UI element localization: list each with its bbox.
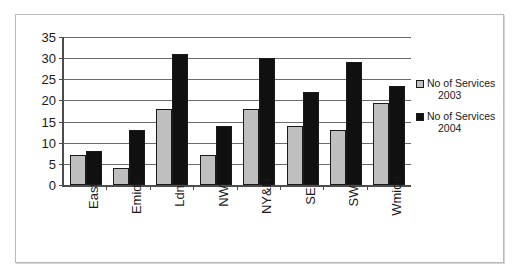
- legend-series-name: No of Services: [427, 110, 495, 122]
- x-label-cell: SE: [281, 194, 324, 254]
- bar-east-2003: [70, 155, 86, 185]
- bar-emids-2003: [113, 168, 129, 185]
- bar-group: [238, 37, 281, 185]
- y-tick-label: 0: [49, 178, 56, 193]
- y-tick-label: 15: [42, 114, 56, 129]
- x-tick-label: Emids: [129, 178, 144, 214]
- bar-wmids-2004: [389, 86, 405, 185]
- bar-group: [368, 37, 411, 185]
- x-axis-labels: EastEmidsLdnNWNY&HSESWWmids: [64, 194, 411, 254]
- bar-nw-2004: [216, 126, 232, 185]
- legend-series-name: No of Services: [427, 77, 495, 89]
- chart-frame: 05101520253035 EastEmidsLdnNWNY&HSESWWmi…: [15, 14, 504, 263]
- y-tick-label: 5: [49, 156, 56, 171]
- x-tick-mark: [323, 185, 324, 190]
- bar-group: [107, 37, 150, 185]
- bar-ldn-2004: [172, 54, 188, 185]
- x-label-cell: NW: [194, 194, 237, 254]
- legend-swatch-icon: [416, 80, 424, 88]
- x-label-cell: NY&H: [238, 194, 281, 254]
- x-tick-label: NY&H: [259, 178, 274, 214]
- x-label-cell: East: [64, 194, 107, 254]
- bar-group: [64, 37, 107, 185]
- bar-se-2004: [303, 92, 319, 185]
- bar-wmids-2003: [373, 103, 389, 185]
- legend-item: No of Services2003: [416, 77, 504, 101]
- bar-nw-2003: [200, 155, 216, 185]
- chart-legend: No of Services2003No of Services2004: [416, 77, 504, 143]
- legend-label: No of Services2004: [427, 110, 495, 134]
- bar-ldn-2003: [156, 109, 172, 185]
- legend-series-year: 2003: [427, 89, 495, 101]
- x-tick-mark: [367, 185, 368, 190]
- y-tick-label: 10: [42, 135, 56, 150]
- legend-series-year: 2004: [427, 122, 495, 134]
- bar-sw-2004: [346, 62, 362, 185]
- legend-label: No of Services2003: [427, 77, 495, 101]
- plot-area: 05101520253035 EastEmidsLdnNWNY&HSESWWmi…: [62, 37, 411, 187]
- bars-layer: [64, 37, 411, 185]
- x-tick-mark: [280, 185, 281, 190]
- x-tick-mark: [193, 185, 194, 190]
- bar-group: [324, 37, 367, 185]
- legend-item: No of Services2004: [416, 110, 504, 134]
- bar-group: [151, 37, 194, 185]
- x-label-cell: SW: [324, 194, 367, 254]
- x-tick-label: SE: [303, 187, 318, 204]
- x-tick-label: Ldn: [172, 185, 187, 207]
- bar-sw-2003: [330, 130, 346, 185]
- bar-group: [281, 37, 324, 185]
- y-tick-mark: [59, 185, 64, 186]
- bar-ny-h-2004: [259, 58, 275, 185]
- x-tick-mark: [150, 185, 151, 190]
- x-tick-label: NW: [216, 185, 231, 207]
- y-tick-label: 25: [42, 72, 56, 87]
- bar-east-2004: [86, 151, 102, 185]
- bar-group: [194, 37, 237, 185]
- x-tick-label: SW: [346, 186, 361, 207]
- legend-swatch-icon: [416, 113, 424, 121]
- x-tick-label: Wmids: [389, 176, 404, 216]
- y-tick-label: 35: [42, 30, 56, 45]
- y-tick-label: 30: [42, 51, 56, 66]
- x-label-cell: Ldn: [151, 194, 194, 254]
- bar-emids-2004: [129, 130, 145, 185]
- x-tick-mark: [106, 185, 107, 190]
- x-label-cell: Wmids: [368, 194, 411, 254]
- x-label-cell: Emids: [107, 194, 150, 254]
- x-tick-label: East: [86, 183, 101, 209]
- bar-se-2003: [287, 126, 303, 185]
- y-tick-label: 20: [42, 93, 56, 108]
- x-tick-mark: [237, 185, 238, 190]
- bar-ny-h-2003: [243, 109, 259, 185]
